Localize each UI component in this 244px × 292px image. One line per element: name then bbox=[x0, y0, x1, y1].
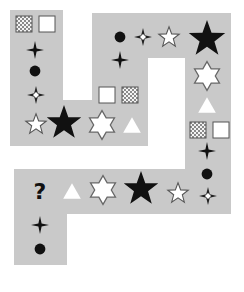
black-circle-icon bbox=[111, 28, 129, 46]
large-black-star-icon bbox=[46, 104, 82, 140]
large-black-star-icon bbox=[188, 19, 226, 57]
outlined-sparkle-icon bbox=[26, 85, 46, 105]
missing-symbol-question-mark: ? bbox=[30, 180, 50, 204]
white-square-icon bbox=[37, 14, 57, 34]
black-circle-icon bbox=[26, 62, 44, 80]
black-circle-icon bbox=[198, 165, 216, 183]
white-hexagram-icon bbox=[191, 60, 223, 92]
white-hexagram-icon bbox=[86, 109, 118, 141]
white-triangle-icon bbox=[121, 114, 143, 136]
white-square-icon bbox=[211, 120, 231, 140]
white-triangle-icon bbox=[196, 94, 218, 116]
black-four-point-star-icon bbox=[197, 141, 217, 161]
checkered-square-icon bbox=[120, 85, 140, 105]
white-square-icon bbox=[97, 85, 117, 105]
small-white-star-icon bbox=[24, 112, 48, 136]
black-four-point-star-icon bbox=[30, 215, 50, 235]
small-white-star-icon bbox=[157, 25, 181, 49]
small-white-star-icon bbox=[166, 181, 190, 205]
checkered-square-icon bbox=[14, 14, 34, 34]
large-black-star-icon bbox=[123, 170, 159, 206]
white-hexagram-icon bbox=[87, 174, 119, 206]
outlined-sparkle-icon bbox=[133, 27, 153, 47]
checkered-square-icon bbox=[188, 120, 208, 140]
white-triangle-icon bbox=[61, 180, 83, 202]
outlined-sparkle-icon bbox=[198, 186, 218, 206]
black-circle-icon bbox=[31, 240, 49, 258]
black-four-point-star-icon bbox=[110, 50, 130, 70]
black-four-point-star-icon bbox=[25, 40, 45, 60]
